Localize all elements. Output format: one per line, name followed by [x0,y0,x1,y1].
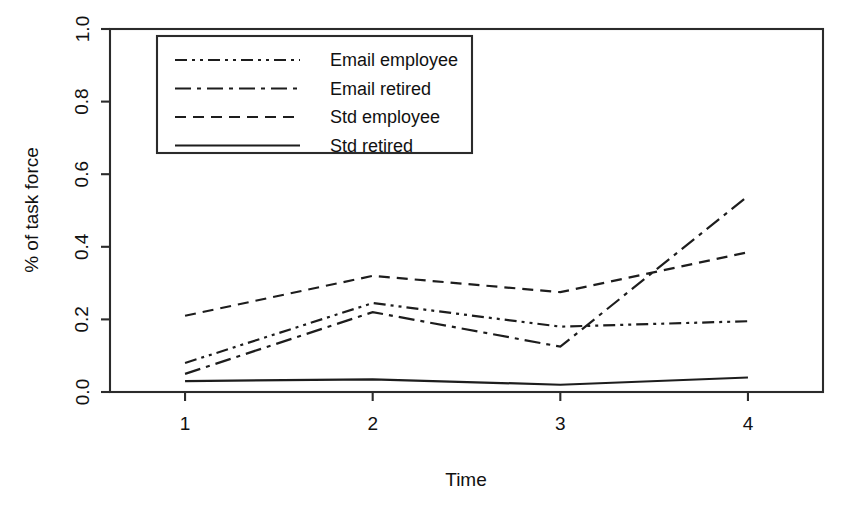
y-tick-label: 1.0 [72,16,93,42]
line-chart-svg: 0.00.20.40.60.81.0 1234 % of task force … [0,0,850,518]
x-tick-label: 3 [555,413,566,434]
y-tick-label: 0.2 [72,306,93,332]
x-axis-title: Time [445,469,487,490]
x-tick-label: 1 [180,413,191,434]
y-tick-label: 0.0 [72,379,93,405]
legend-label-email-employee: Email employee [330,50,458,70]
x-tick-label: 2 [367,413,378,434]
y-tick-label: 0.6 [72,161,93,187]
legend: Email employeeEmail retiredStd employeeS… [157,36,472,156]
x-tick-label: 4 [743,413,754,434]
y-tick-label: 0.4 [72,233,93,260]
y-axis-title: % of task force [21,147,42,273]
legend-label-std-retired: Std retired [330,136,413,156]
legend-label-std-employee: Std employee [330,107,440,127]
y-tick-label: 0.8 [72,88,93,114]
legend-label-email-retired: Email retired [330,79,431,99]
chart-figure: 0.00.20.40.60.81.0 1234 % of task force … [0,0,850,518]
